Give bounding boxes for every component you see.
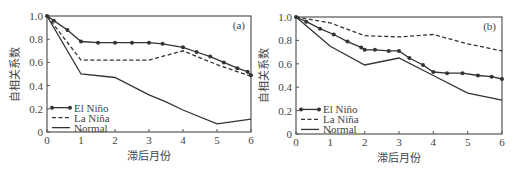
data-point-marker xyxy=(304,20,308,24)
y-tick-label: 0.2 xyxy=(29,103,43,115)
legend-marker xyxy=(50,106,54,110)
y-tick-label: 0.2 xyxy=(278,105,292,117)
data-point-marker xyxy=(363,48,367,52)
series-line-el-ni-o xyxy=(296,17,502,79)
y-tick-label: 1.0 xyxy=(278,11,292,23)
data-point-marker xyxy=(181,45,185,49)
data-point-marker xyxy=(96,41,100,45)
data-point-marker xyxy=(373,48,377,52)
x-tick-label: 2 xyxy=(362,136,368,148)
series-line-normal xyxy=(296,17,502,100)
y-tick-label: 0 xyxy=(38,126,44,138)
data-point-marker xyxy=(79,40,83,44)
data-point-marker xyxy=(222,60,226,64)
x-tick-label: 5 xyxy=(214,134,220,146)
panel-label: (a) xyxy=(233,19,246,32)
y-tick-label: 0.8 xyxy=(29,33,43,45)
chart-a-svg: 012345600.20.40.60.81.0滞后月份自相关系数(a)El Ni… xyxy=(0,0,257,169)
x-tick-label: 3 xyxy=(396,136,402,148)
legend-marker xyxy=(317,107,321,111)
y-tick-label: 0.8 xyxy=(278,34,292,46)
y-tick-label: 0.6 xyxy=(29,56,43,68)
data-point-marker xyxy=(359,45,363,49)
data-point-marker xyxy=(195,50,199,54)
chart-b-svg: 012345600.20.40.60.81.0滞后月份自相关系数(b)El Ni… xyxy=(257,0,514,169)
series-line-la-ni-a xyxy=(296,17,502,51)
data-point-marker xyxy=(130,41,134,45)
x-tick-label: 6 xyxy=(248,134,254,146)
x-tick-label: 2 xyxy=(112,134,118,146)
x-tick-label: 6 xyxy=(499,136,505,148)
y-tick-label: 0.4 xyxy=(278,81,292,93)
data-point-marker xyxy=(332,33,336,37)
x-tick-label: 1 xyxy=(328,136,334,148)
data-point-marker xyxy=(500,77,504,81)
data-point-marker xyxy=(407,56,411,60)
y-tick-label: 1.0 xyxy=(29,10,43,22)
x-tick-label: 4 xyxy=(180,134,186,146)
x-tick-label: 5 xyxy=(465,136,471,148)
x-tick-label: 3 xyxy=(146,134,152,146)
y-tick-label: 0.4 xyxy=(29,80,43,92)
x-tick-label: 0 xyxy=(44,134,50,146)
chart-panel-b: 012345600.20.40.60.81.0滞后月份自相关系数(b)El Ni… xyxy=(257,0,514,169)
data-point-marker xyxy=(397,49,401,53)
data-point-marker xyxy=(113,41,117,45)
data-point-marker xyxy=(235,66,239,70)
data-point-marker xyxy=(387,49,391,53)
legend-marker xyxy=(299,107,303,111)
legend-label: Normal xyxy=(74,122,108,134)
legend-marker xyxy=(68,106,72,110)
data-point-marker xyxy=(208,55,212,59)
x-axis-label: 滞后月份 xyxy=(127,150,171,163)
data-point-marker xyxy=(476,74,480,78)
data-point-marker xyxy=(461,71,465,75)
data-point-marker xyxy=(161,42,165,46)
data-point-marker xyxy=(445,71,449,75)
data-point-marker xyxy=(490,75,494,79)
x-tick-label: 4 xyxy=(431,136,437,148)
y-axis-label: 自相关系数 xyxy=(257,48,271,103)
data-point-marker xyxy=(431,70,435,74)
legend-label: Normal xyxy=(323,123,357,135)
data-point-marker xyxy=(318,27,322,31)
data-point-marker xyxy=(246,70,250,74)
x-tick-label: 0 xyxy=(293,136,299,148)
data-point-marker xyxy=(421,63,425,67)
x-tick-label: 1 xyxy=(78,134,84,146)
data-point-marker xyxy=(346,40,350,44)
x-axis-label: 滞后月份 xyxy=(377,152,421,165)
chart-panel-a: 012345600.20.40.60.81.0滞后月份自相关系数(a)El Ni… xyxy=(0,0,257,169)
data-point-marker xyxy=(65,28,69,32)
series-line-el-ni-o xyxy=(47,16,251,75)
panel-label: (b) xyxy=(483,20,496,33)
y-tick-label: 0.6 xyxy=(278,58,292,70)
data-point-marker xyxy=(147,41,151,45)
y-tick-label: 0 xyxy=(287,128,293,140)
y-axis-label: 自相关系数 xyxy=(8,47,22,102)
